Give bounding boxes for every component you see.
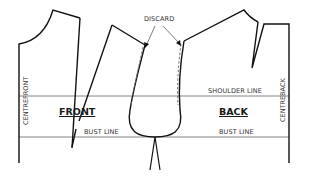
front-dart-left-leg — [72, 18, 80, 148]
front-label: FRONT — [59, 107, 95, 117]
discard-arrow-right — [163, 26, 180, 44]
armhole-curve — [129, 41, 184, 137]
side-seam-lines — [150, 137, 160, 170]
centre-front-label: CENTREFRONT — [23, 77, 30, 125]
discard-arrow-left — [146, 26, 155, 46]
centre-back-label: CENTREBACK — [280, 78, 287, 122]
front-bust-line-label: BUST LINE — [84, 129, 119, 136]
back-bust-line-label: BUST LINE — [219, 129, 254, 136]
back-shoulder — [184, 10, 258, 41]
back-label: BACK — [219, 107, 248, 117]
shoulder-line-label: SHOULDER LINE — [208, 88, 262, 95]
front-shoulder-2 — [112, 25, 145, 45]
discard-label: DISCARD — [144, 16, 174, 23]
